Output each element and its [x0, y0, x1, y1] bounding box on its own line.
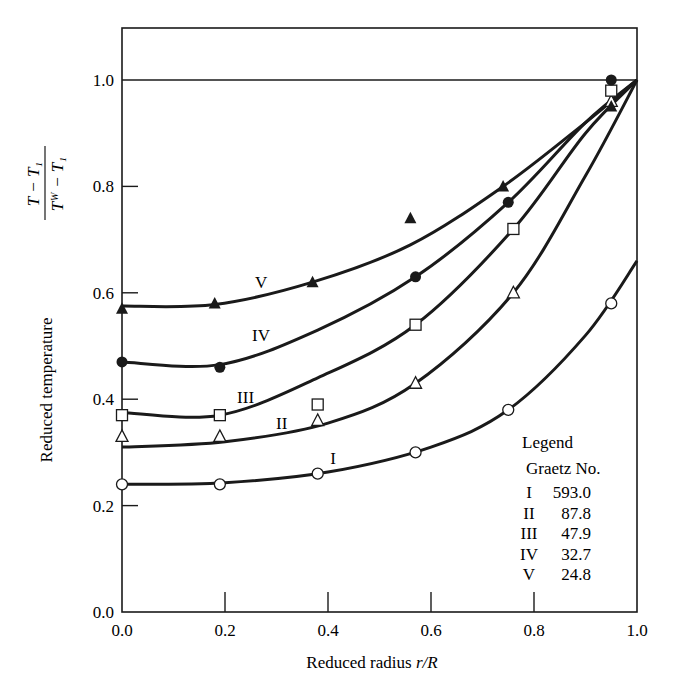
y-tick-label: 0.8	[93, 177, 114, 196]
y-axis-label: Reduced temperature	[37, 318, 56, 463]
legend-entry-value: 47.9	[561, 524, 591, 543]
curve-label-i: I	[330, 449, 336, 468]
x-tick-label: 0.6	[420, 621, 441, 640]
legend-entry-label: IV	[520, 545, 539, 564]
y-tick-label: 1.0	[93, 71, 114, 90]
curve-label-v: V	[255, 273, 268, 292]
marker-filled-triangle	[404, 212, 416, 224]
marker-filled-circle	[117, 356, 128, 367]
plot-frame	[122, 28, 637, 612]
x-tick-label: 0.2	[214, 621, 235, 640]
curve-label-iii: III	[237, 388, 254, 407]
markers	[116, 75, 617, 490]
marker-open-circle	[606, 298, 617, 309]
legend-entry-label: V	[523, 565, 536, 584]
y-tick-label: 0.4	[93, 390, 115, 409]
legend-entry-value: 87.8	[561, 504, 591, 523]
y-axis-fraction: T − T₁ Tᵂ − T₁	[24, 146, 67, 220]
marker-open-square	[606, 85, 617, 96]
marker-filled-circle	[606, 75, 617, 86]
x-tick-label: 0.4	[317, 621, 339, 640]
x-tick-label: 1.0	[626, 621, 647, 640]
legend-entry-label: I	[526, 483, 532, 502]
marker-open-triangle	[116, 430, 128, 442]
y-axis-fraction-denominator: Tᵂ − T₁	[48, 157, 67, 211]
marker-open-square	[312, 399, 323, 410]
curve-label-ii: II	[276, 414, 288, 433]
curves	[122, 80, 637, 484]
marker-open-square	[508, 223, 519, 234]
marker-open-circle	[117, 479, 128, 490]
marker-open-square	[117, 410, 128, 421]
legend-entry-label: II	[523, 504, 535, 523]
curve-label-iv: IV	[252, 326, 271, 345]
y-tick-label: 0.6	[93, 284, 114, 303]
marker-open-circle	[312, 468, 323, 479]
legend-subtitle: Graetz No.	[526, 459, 601, 478]
marker-filled-circle	[214, 362, 225, 373]
x-tick-label: 0.8	[523, 621, 544, 640]
y-tick-label: 0.2	[93, 497, 114, 516]
y-axis-fraction-numerator: T − T₁	[24, 162, 43, 206]
legend-entry-label: III	[521, 524, 538, 543]
x-axis-label: Reduced radius r/R	[306, 653, 438, 672]
legend-entry-value: 593.0	[553, 483, 591, 502]
legend-entry-value: 32.7	[561, 545, 591, 564]
marker-open-circle	[503, 404, 514, 415]
marker-open-triangle	[214, 430, 226, 442]
marker-filled-circle	[410, 271, 421, 282]
curve-v	[122, 80, 637, 307]
marker-filled-circle	[503, 197, 514, 208]
legend: Legend Graetz No. I593.0II87.8III47.9IV3…	[520, 433, 601, 584]
marker-open-square	[214, 410, 225, 421]
x-axis-ticks: 0.00.20.40.60.81.0	[111, 592, 647, 640]
y-axis-ticks: 0.00.20.40.60.81.0	[93, 71, 138, 622]
marker-open-circle	[214, 479, 225, 490]
marker-open-circle	[410, 447, 421, 458]
plot-border	[122, 28, 637, 612]
legend-title: Legend	[522, 433, 573, 452]
marker-open-square	[410, 319, 421, 330]
curve-ii	[122, 80, 637, 447]
legend-entry-value: 24.8	[561, 565, 591, 584]
y-axis-label-text: Reduced temperature	[37, 318, 56, 463]
y-tick-label: 0.0	[93, 603, 114, 622]
marker-filled-triangle	[116, 302, 128, 314]
chart-canvas: IIIIIIIVV 0.00.20.40.60.81.0 0.00.20.40.…	[0, 0, 681, 684]
x-tick-label: 0.0	[111, 621, 132, 640]
marker-open-triangle	[312, 414, 324, 426]
